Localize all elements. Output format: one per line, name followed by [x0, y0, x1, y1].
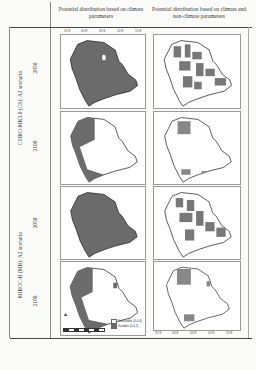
lon-tick: 55°E — [135, 29, 142, 33]
north-arrow-icon: ▲ — [63, 312, 68, 317]
lon-tick: 50°E — [117, 29, 124, 33]
year-label-mr-2100: 2100 — [32, 286, 38, 316]
map-cs-2100-climate — [60, 111, 146, 185]
first-col-rule — [9, 27, 10, 338]
lon-tick: 45°E — [99, 29, 106, 33]
legend-swatch-suitable — [111, 324, 117, 329]
legend: Unsuitable (0-0.4) Suitable (0.4-1) — [111, 319, 142, 329]
header-rule — [10, 27, 252, 28]
right-rule — [248, 27, 249, 338]
map-cs-2100-combined — [153, 111, 241, 185]
lon-tick: 55°E — [226, 331, 233, 335]
bottom-rule — [10, 338, 252, 339]
column-header-climate-nonclimate: Potential distribution based on climate … — [150, 6, 248, 20]
header-left-rule — [50, 2, 51, 338]
year-label-cs-2100: 2100 — [32, 131, 38, 161]
map-mr-2100-climate: ▲ Unsuitable (0-0.4) Suitable (0.4-1) — [60, 261, 146, 336]
lon-tick: 50°E — [208, 331, 215, 335]
map-mr-2050-combined — [153, 186, 241, 260]
year-label-mr-2050: 2050 — [32, 208, 38, 238]
scenario-label-csiro: CSIRO-MK3.0 (CS): A2 scenario — [17, 58, 23, 158]
scale-bar — [63, 328, 105, 332]
legend-label-unsuitable: Unsuitable (0-0.4) — [118, 319, 142, 323]
map-mr-2100-combined — [153, 261, 241, 331]
map-cs-2050-climate — [60, 34, 146, 109]
lon-tick: 40°E — [81, 29, 88, 33]
lon-tick: 40°E — [172, 331, 179, 335]
scenario-label-miroc: MIROC-H (MR): A2 scenario — [17, 215, 23, 315]
lon-tick: 45°E — [190, 331, 197, 335]
column-header-climate: Potential distribution based on climate … — [58, 6, 144, 20]
map-cs-2050-combined — [153, 34, 241, 109]
lon-tick: 35°E — [64, 29, 71, 33]
map-mr-2050-climate — [60, 186, 146, 260]
year-label-cs-2050: 2050 — [32, 53, 38, 83]
lon-tick: 35°E — [155, 331, 162, 335]
legend-label-suitable: Suitable (0.4-1) — [118, 324, 139, 328]
